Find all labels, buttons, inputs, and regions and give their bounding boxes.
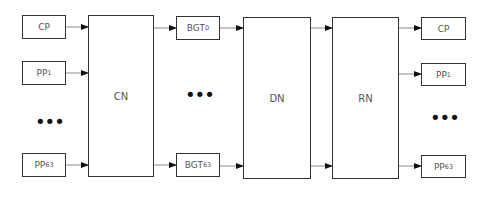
input-pp63-sub: 63 bbox=[45, 161, 53, 169]
output-ellipsis: ••• bbox=[430, 113, 459, 123]
bgt0-sub: 0 bbox=[205, 24, 209, 32]
input-pp1-box: PP1 bbox=[22, 61, 66, 85]
output-pp63-box: PP63 bbox=[421, 155, 466, 178]
input-pp63-box: PP63 bbox=[22, 153, 66, 177]
output-pp1-sub: 1 bbox=[447, 71, 451, 79]
rn-label: RN bbox=[358, 93, 372, 104]
output-pp1-label: PP bbox=[436, 70, 447, 80]
rn-block: RN bbox=[332, 17, 399, 179]
output-cp-label: CP bbox=[438, 24, 450, 34]
output-cp-box: CP bbox=[421, 17, 466, 40]
dn-label: DN bbox=[269, 93, 284, 104]
input-ellipsis: ••• bbox=[35, 117, 64, 127]
input-pp63-label: PP bbox=[34, 160, 45, 170]
input-pp1-sub: 1 bbox=[47, 69, 51, 77]
bgt0-box: BGT0 bbox=[176, 16, 220, 40]
bgt63-label: BGT bbox=[185, 160, 203, 170]
output-pp63-sub: 63 bbox=[445, 163, 453, 171]
bgt63-sub: 63 bbox=[203, 161, 211, 169]
cn-block: CN bbox=[88, 15, 154, 177]
cn-label: CN bbox=[114, 91, 128, 102]
bgt63-box: BGT63 bbox=[176, 153, 220, 177]
input-pp1-label: PP bbox=[37, 68, 48, 78]
bgt0-label: BGT bbox=[187, 23, 205, 33]
middle-ellipsis: ••• bbox=[185, 90, 214, 100]
dn-block: DN bbox=[243, 17, 311, 179]
output-pp1-box: PP1 bbox=[421, 63, 466, 86]
input-cp-label: CP bbox=[38, 22, 50, 32]
output-pp63-label: PP bbox=[434, 162, 445, 172]
input-cp-box: CP bbox=[22, 15, 66, 39]
